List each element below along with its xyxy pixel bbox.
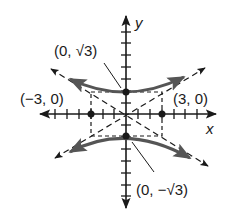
- label-top-vertex: (0, √3): [54, 42, 97, 59]
- point-left: [88, 111, 95, 118]
- label-left-point: (−3, 0): [20, 90, 64, 107]
- label-right-point: (3, 0): [173, 90, 208, 107]
- point-bottom-vertex: [123, 133, 130, 140]
- point-right: [159, 111, 166, 118]
- label-bottom-vertex: (0, −√3): [136, 181, 188, 198]
- leader-line-top: [104, 63, 121, 88]
- leader-line-bottom: [132, 142, 154, 172]
- y-axis-label: y: [134, 14, 144, 31]
- x-axis-label: x: [205, 120, 214, 137]
- point-top-vertex: [123, 89, 130, 96]
- hyperbola-lower-branch: [70, 138, 190, 158]
- hyperbola-diagram: (0, √3) (−3, 0) (3, 0) (0, −√3) x y: [0, 0, 228, 223]
